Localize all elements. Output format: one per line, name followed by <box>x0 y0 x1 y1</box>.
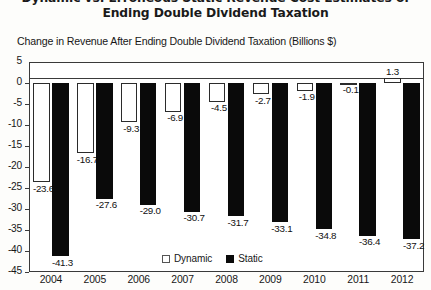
chart-title: Dynamic vs. Erroneous Static Revenue Cos… <box>0 0 431 21</box>
bar-label-static-2005: -27.6 <box>96 199 117 210</box>
legend-swatch-static-icon <box>226 255 234 263</box>
x-axis-label-2010: 2010 <box>303 274 326 285</box>
legend-swatch-dynamic-icon <box>162 255 170 263</box>
bar-group: -1.9-34.8 <box>292 62 336 272</box>
bar-group: -0.1-36.4 <box>336 62 380 272</box>
bar-dynamic-2007[interactable] <box>165 83 182 112</box>
bar-label-dynamic-2006: -9.3 <box>123 123 139 134</box>
bar-group: -23.6-41.3 <box>29 62 73 272</box>
y-axis-tick-label: -25 <box>8 181 22 192</box>
bar-label-static-2008: -31.7 <box>227 217 248 228</box>
x-axis-label-2008: 2008 <box>215 274 238 285</box>
y-axis-tick-label: 5 <box>17 55 22 66</box>
bar-group: -9.3-29.0 <box>117 62 161 272</box>
bar-static-2006[interactable] <box>140 83 157 205</box>
x-axis-label-2011: 2011 <box>347 274 369 285</box>
bar-dynamic-2009[interactable] <box>253 83 270 94</box>
bar-dynamic-2008[interactable] <box>209 83 226 102</box>
y-axis-tick-label: -20 <box>8 160 22 171</box>
chart-subtitle: Change in Revenue After Ending Double Di… <box>17 35 336 47</box>
bar-dynamic-2005[interactable] <box>77 83 94 153</box>
x-axis: 200420052006200720082009201020112012 <box>29 274 424 290</box>
x-axis-label-2007: 2007 <box>171 274 194 285</box>
bar-label-static-2007: -30.7 <box>184 212 205 223</box>
bar-label-static-2011: -36.4 <box>359 236 380 247</box>
bar-label-static-2004: -41.3 <box>52 257 73 268</box>
bar-dynamic-2004[interactable] <box>33 83 50 182</box>
bar-label-dynamic-2012: 1.3 <box>386 66 399 77</box>
y-axis-tick-label: -30 <box>8 202 22 213</box>
legend-item-static[interactable]: Static <box>226 253 262 264</box>
y-axis-tick-label: -45 <box>8 265 22 276</box>
bar-static-2008[interactable] <box>228 83 245 216</box>
bar-label-dynamic-2008: -4.5 <box>211 102 227 113</box>
y-axis-tick-label: -15 <box>8 139 22 150</box>
y-axis-tick-label: -5 <box>13 97 22 108</box>
chart-title-line-2: Ending Double Dividend Taxation <box>0 6 431 21</box>
bar-label-static-2006: -29.0 <box>140 205 161 216</box>
legend-item-dynamic[interactable]: Dynamic <box>162 253 212 264</box>
bar-group: -2.7-33.1 <box>248 62 292 272</box>
legend-label-static: Static <box>238 253 262 264</box>
bar-label-static-2010: -34.8 <box>315 230 336 241</box>
y-axis: 50-5-10-15-20-25-30-35-40-45 <box>0 62 29 272</box>
x-axis-label-2004: 2004 <box>40 274 63 285</box>
bar-label-dynamic-2005: -16.7 <box>77 154 98 165</box>
bar-label-dynamic-2010: -1.9 <box>299 91 315 102</box>
legend-label-dynamic: Dynamic <box>174 253 212 264</box>
bar-static-2009[interactable] <box>272 83 289 222</box>
bar-label-static-2009: -33.1 <box>271 223 292 234</box>
bars-layer: -23.6-41.3-16.7-27.6-9.3-29.0-6.9-30.7-4… <box>29 62 424 272</box>
y-axis-tick-mark <box>25 272 29 273</box>
bar-static-2005[interactable] <box>96 83 113 199</box>
chart-legend: Dynamic Static <box>162 253 263 264</box>
bar-group: 1.3-37.2 <box>380 62 424 272</box>
x-axis-label-2005: 2005 <box>84 274 107 285</box>
bar-group: -4.5-31.7 <box>205 62 249 272</box>
bar-dynamic-2010[interactable] <box>297 83 314 91</box>
bar-static-2007[interactable] <box>184 83 201 212</box>
bar-group: -6.9-30.7 <box>161 62 205 272</box>
y-axis-tick-label: -10 <box>8 118 22 129</box>
bar-label-static-2012: -37.2 <box>403 240 424 251</box>
bar-label-dynamic-2011: -0.1 <box>343 84 359 95</box>
bar-static-2010[interactable] <box>316 83 333 229</box>
bar-dynamic-2012[interactable] <box>384 78 401 83</box>
x-axis-label-2009: 2009 <box>259 274 282 285</box>
y-axis-tick-label: -35 <box>8 223 22 234</box>
y-axis-tick-label: -40 <box>8 244 22 255</box>
bar-dynamic-2006[interactable] <box>121 83 138 122</box>
bar-static-2004[interactable] <box>52 83 69 256</box>
bar-label-dynamic-2004: -23.6 <box>33 183 54 194</box>
x-axis-label-2012: 2012 <box>391 274 414 285</box>
y-axis-tick-label: 0 <box>17 76 22 87</box>
x-axis-label-2006: 2006 <box>127 274 150 285</box>
bar-label-dynamic-2009: -2.7 <box>255 95 271 106</box>
bar-static-2012[interactable] <box>403 83 420 239</box>
bar-static-2011[interactable] <box>359 83 376 236</box>
bar-label-dynamic-2007: -6.9 <box>167 112 183 123</box>
bar-group: -16.7-27.6 <box>73 62 117 272</box>
